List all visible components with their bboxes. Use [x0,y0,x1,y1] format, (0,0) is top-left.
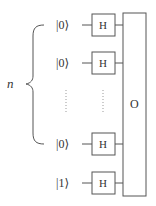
ket-1: |0⟩ [56,56,69,70]
hadamard-label-2: H [99,57,107,69]
register-brace [26,25,44,144]
quantum-circuit: n |0⟩ H |0⟩ H |0⟩ H |1⟩ H O [0,0,156,206]
hadamard-label-n: H [99,138,107,150]
ket-ancilla: |1⟩ [56,176,69,190]
ket-n: |0⟩ [56,137,69,151]
register-size-label: n [7,76,14,91]
oracle-label: O [130,97,139,111]
hadamard-label-ancilla: H [99,177,107,189]
hadamard-label-1: H [99,19,107,31]
ket-0: |0⟩ [56,18,69,32]
